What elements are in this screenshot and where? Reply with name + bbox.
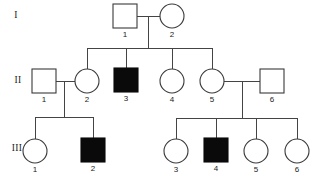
generation-label-i: I (14, 10, 17, 20)
individual-ii-5-label: 5 (210, 95, 215, 104)
symbol-layer (23, 4, 309, 163)
individual-i-2-label: 2 (170, 30, 175, 39)
individual-iii-3[interactable] (164, 139, 188, 163)
individual-ii-1[interactable] (32, 69, 56, 93)
individual-ii-6-label: 6 (270, 95, 275, 104)
individual-ii-3-label: 3 (124, 94, 129, 103)
individual-ii-4[interactable] (160, 69, 184, 93)
individual-iii-3-label: 3 (174, 165, 179, 174)
individual-ii-5[interactable] (200, 69, 224, 93)
individual-iii-4-label: 4 (214, 164, 219, 173)
individual-iii-5[interactable] (244, 139, 268, 163)
individual-i-1-label: 1 (123, 30, 128, 39)
individual-ii-2[interactable] (75, 69, 99, 93)
individual-ii-4-label: 4 (170, 95, 175, 104)
individual-ii-3[interactable] (114, 68, 138, 92)
individual-iii-1-label: 1 (33, 165, 38, 174)
individual-ii-6[interactable] (260, 69, 284, 93)
generation-label-ii: II (15, 75, 22, 85)
generation-label-layer: IIIIII (12, 10, 22, 153)
individual-ii-1-label: 1 (42, 95, 47, 104)
individual-i-1[interactable] (113, 4, 137, 28)
individual-iii-4[interactable] (204, 138, 228, 162)
pedigree-canvas: 12123456123456 IIIIII (0, 0, 321, 181)
individual-ii-2-label: 2 (85, 95, 90, 104)
individual-iii-6-label: 6 (295, 165, 300, 174)
individual-iii-6[interactable] (285, 139, 309, 163)
individual-i-2[interactable] (160, 4, 184, 28)
individual-iii-1[interactable] (23, 139, 47, 163)
individual-iii-2-label: 2 (91, 164, 96, 173)
pedigree-chart: 12123456123456 IIIIII (0, 0, 321, 181)
generation-label-iii: III (12, 143, 22, 153)
individual-iii-2[interactable] (81, 138, 105, 162)
individual-iii-5-label: 5 (254, 165, 259, 174)
